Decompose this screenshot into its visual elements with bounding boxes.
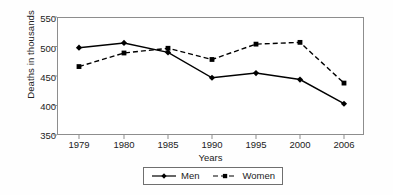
legend-label-women: Women xyxy=(242,170,275,181)
data-point-men-2000 xyxy=(297,76,303,82)
data-point-women-1990 xyxy=(210,57,215,62)
data-point-men-2006 xyxy=(341,101,347,107)
x-tick-label-1995: 1995 xyxy=(233,139,279,150)
line-chart: Deaths in thousands 550 500 450 400 350 … xyxy=(0,0,393,195)
x-tick-label-1979: 1979 xyxy=(56,139,102,150)
data-point-women-1995 xyxy=(254,42,259,47)
data-point-men-1980 xyxy=(121,40,127,46)
x-tick-label-2006: 2006 xyxy=(321,139,367,150)
data-point-women-1985 xyxy=(166,46,171,51)
data-point-men-1995 xyxy=(253,70,259,76)
data-point-women-1979 xyxy=(77,64,82,69)
chart-legend: Men Women xyxy=(143,167,283,185)
legend-entry-women: Women xyxy=(212,170,275,181)
legend-swatch-solid-diamond-icon xyxy=(151,171,177,181)
x-tick-label-2000: 2000 xyxy=(277,139,323,150)
data-point-women-2006 xyxy=(342,81,347,86)
data-point-men-1990 xyxy=(209,75,215,81)
x-tick-label-1985: 1985 xyxy=(145,139,191,150)
x-axis-title: Years xyxy=(57,152,364,163)
data-point-women-1980 xyxy=(122,51,127,56)
series-layer xyxy=(0,0,393,195)
x-tick-label-1990: 1990 xyxy=(189,139,235,150)
legend-label-men: Men xyxy=(181,170,199,181)
series-line-men xyxy=(79,43,344,104)
data-series-group xyxy=(76,40,347,107)
data-point-men-1979 xyxy=(76,45,82,51)
x-tick-label-1980: 1980 xyxy=(101,139,147,150)
data-point-women-2000 xyxy=(298,40,303,45)
legend-swatch-dashed-square-icon xyxy=(212,171,238,181)
legend-entry-men: Men xyxy=(151,170,199,181)
